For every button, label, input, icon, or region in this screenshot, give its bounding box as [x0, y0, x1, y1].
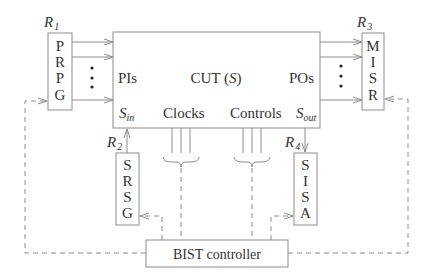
- misr-letter: R: [368, 87, 378, 103]
- prpg-letter: G: [55, 87, 66, 103]
- bist-controller-label: BIST controller: [173, 247, 261, 262]
- srsg-letter: S: [123, 189, 131, 205]
- clock-bus: [163, 128, 199, 240]
- misr-letter: S: [369, 70, 377, 86]
- sisa-letter: S: [301, 157, 309, 173]
- pos-label: POs: [289, 70, 314, 86]
- control-brace: [234, 157, 270, 167]
- srsg-letter: G: [122, 205, 133, 221]
- pi-arrows: [72, 42, 113, 100]
- r3-label: R3: [356, 14, 372, 32]
- prpg-letter: R: [55, 54, 65, 70]
- r4-label: R4: [284, 134, 300, 152]
- r2-label: R2: [106, 134, 122, 152]
- ellipsis-dot: [90, 66, 93, 69]
- prpg-letter: P: [56, 38, 64, 54]
- control-bus: [234, 128, 270, 240]
- ellipsis-dot: [339, 74, 342, 77]
- sisa-letter: A: [300, 205, 311, 221]
- r1-label: R1: [43, 14, 59, 32]
- srsg-letter: S: [123, 157, 131, 173]
- ellipsis-dot: [339, 64, 342, 67]
- ellipsis-dot: [90, 85, 93, 88]
- po-arrows: [320, 42, 362, 100]
- bist-diagram: R1 P R P G PIs CUT (S) POs Sin Clocks Co…: [0, 0, 429, 279]
- prpg-register: R1 P R P G: [43, 14, 72, 110]
- ellipsis-dot: [339, 84, 342, 87]
- misr-letter: M: [366, 38, 379, 54]
- misr-letter: I: [371, 54, 376, 70]
- prpg-letter: P: [56, 70, 64, 86]
- controller-links: [140, 216, 293, 240]
- sisa-register: R4 S I S A: [284, 128, 317, 225]
- clocks-label: Clocks: [163, 105, 205, 121]
- cut-label: CUT (S): [191, 70, 242, 87]
- cut-block: PIs CUT (S) POs Sin Clocks Controls Sout: [113, 32, 320, 128]
- bist-controller: BIST controller: [146, 240, 288, 267]
- sisa-letter: I: [303, 173, 308, 189]
- ellipsis-dot: [90, 76, 93, 79]
- pis-label: PIs: [118, 70, 137, 86]
- sisa-letter: S: [301, 189, 309, 205]
- controls-label: Controls: [230, 105, 282, 121]
- clock-brace: [163, 157, 199, 167]
- srsg-register: R2 S R S G: [106, 129, 139, 225]
- misr-register: R3 M I S R: [356, 14, 384, 110]
- srsg-letter: R: [122, 173, 132, 189]
